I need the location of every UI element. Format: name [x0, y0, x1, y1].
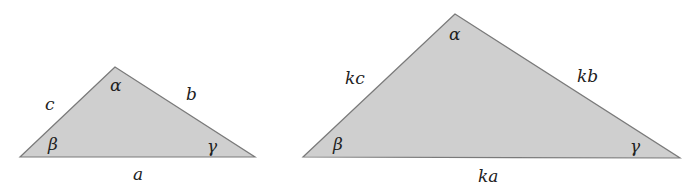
large-triangle: α β γ kc kb ka: [303, 14, 680, 186]
large-side-kb: kb: [577, 66, 598, 86]
small-angle-gamma: γ: [207, 136, 218, 156]
small-angle-beta: β: [47, 134, 58, 154]
large-side-ka: ka: [478, 166, 498, 186]
small-triangle: α β γ c b a: [20, 67, 255, 184]
small-side-a: a: [133, 164, 143, 184]
large-angle-beta: β: [332, 134, 343, 154]
similar-triangles-diagram: α β γ c b a α β γ kc kb ka: [0, 0, 692, 189]
large-angle-alpha: α: [449, 24, 461, 44]
small-side-b: b: [186, 84, 197, 104]
large-side-kc: kc: [345, 68, 365, 88]
large-angle-gamma: γ: [630, 136, 641, 156]
small-angle-alpha: α: [110, 75, 122, 95]
small-side-c: c: [45, 94, 55, 114]
